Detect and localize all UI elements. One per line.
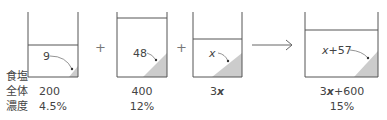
beaker-2-total: 400 — [132, 85, 153, 98]
beaker-2-salt: 48 — [133, 47, 147, 60]
beaker-1-concentration: 4.5% — [39, 100, 67, 113]
row-label-concentration: 濃度 — [6, 100, 28, 113]
beaker-2 — [117, 12, 167, 77]
beaker-3 — [193, 12, 242, 77]
plus-operator-2: + — [176, 40, 187, 55]
arrow-right-icon — [252, 40, 292, 50]
beaker-4-total: 3x+600 — [320, 85, 364, 98]
row-label-salt: 食塩 — [6, 70, 28, 83]
beaker-1-total: 200 — [39, 85, 60, 98]
plus-operator-1: + — [95, 40, 106, 55]
beaker-2-concentration: 12% — [130, 100, 154, 113]
beaker-4-concentration: 15% — [330, 100, 354, 113]
beaker-1-salt: 9 — [43, 50, 50, 63]
beaker-4-salt: x+57 — [322, 44, 352, 57]
beaker-3-salt: x — [209, 47, 216, 60]
beaker-3-total: 3x — [210, 85, 224, 98]
beaker-1 — [28, 12, 78, 77]
row-label-total: 全体 — [6, 85, 28, 98]
